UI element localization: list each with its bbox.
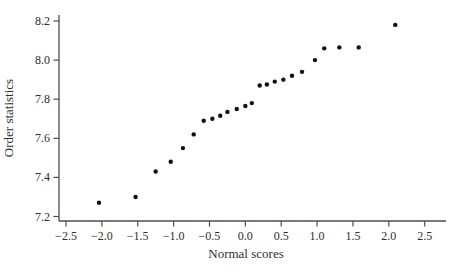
y-tick-label: 8.0 — [35, 53, 50, 67]
data-point — [257, 83, 261, 87]
y-tick-label: 7.2 — [35, 210, 50, 224]
y-tick-label: 7.8 — [35, 92, 50, 106]
x-tick-label: 0.0 — [238, 229, 253, 243]
data-point — [337, 45, 341, 49]
data-point — [133, 195, 137, 199]
x-tick-label: −0.5 — [199, 229, 221, 243]
data-point — [210, 117, 214, 121]
data-point — [322, 46, 326, 50]
data-point — [250, 101, 254, 105]
data-point — [243, 104, 247, 108]
scatter-plot-canvas: Normal scores Order statistics −2.5−2.0−… — [0, 0, 458, 273]
y-tick-label: 7.6 — [35, 131, 50, 145]
data-point — [356, 45, 360, 49]
data-point — [225, 110, 229, 114]
data-point — [273, 79, 277, 83]
x-tick-label: 1.0 — [310, 229, 325, 243]
qq-plot-figure: Normal scores Order statistics −2.5−2.0−… — [0, 0, 458, 273]
x-tick-label: 2.5 — [417, 229, 432, 243]
data-point — [265, 82, 269, 86]
data-point — [300, 70, 304, 74]
data-point — [181, 146, 185, 150]
x-tick-label: 0.5 — [274, 229, 289, 243]
data-point — [235, 107, 239, 111]
data-point — [202, 119, 206, 123]
x-tick-label: 1.5 — [345, 229, 360, 243]
x-tick-label: −2.0 — [91, 229, 113, 243]
x-axis-title: Normal scores — [208, 246, 283, 261]
y-axis-title: Order statistics — [1, 79, 16, 157]
data-point — [313, 58, 317, 62]
data-point — [169, 160, 173, 164]
data-point — [191, 132, 195, 136]
data-point — [218, 114, 222, 118]
data-point — [97, 201, 101, 205]
y-tick-label: 8.2 — [35, 14, 50, 28]
data-point — [393, 23, 397, 27]
data-point — [153, 169, 157, 173]
x-tick-label: −1.5 — [127, 229, 149, 243]
data-point — [290, 74, 294, 78]
y-tick-label: 7.4 — [35, 170, 50, 184]
x-tick-label: −1.0 — [163, 229, 185, 243]
data-point — [281, 77, 285, 81]
x-tick-label: −2.5 — [55, 229, 77, 243]
x-tick-label: 2.0 — [381, 229, 396, 243]
